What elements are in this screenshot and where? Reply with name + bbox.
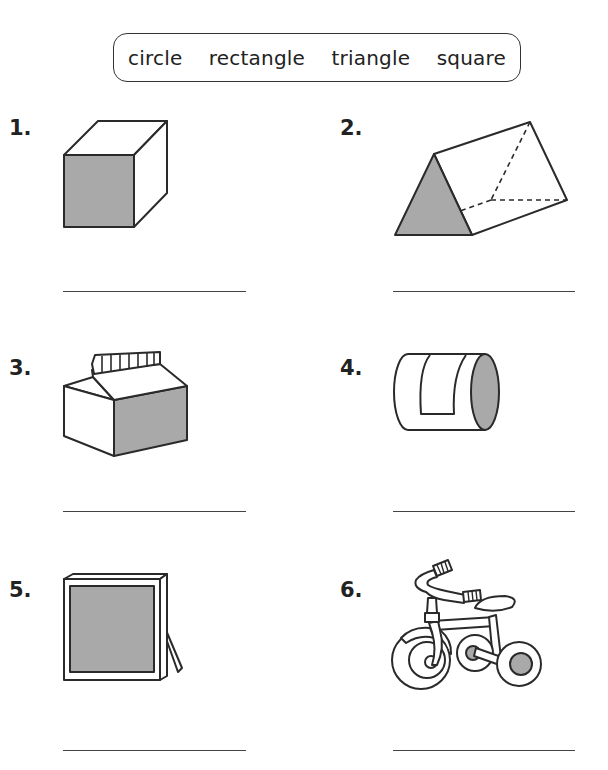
- answer-line-6[interactable]: [393, 750, 575, 751]
- tricycle-figure: [0, 0, 608, 770]
